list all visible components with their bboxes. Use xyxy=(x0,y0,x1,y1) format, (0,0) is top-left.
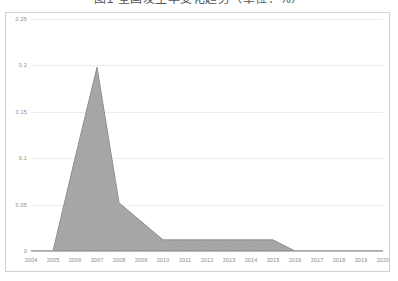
x-tick-label: 2016 xyxy=(289,257,302,263)
y-tick-label: 0.25 xyxy=(15,16,27,22)
x-tick-label: 2007 xyxy=(91,257,104,263)
x-tick-label: 2017 xyxy=(311,257,324,263)
x-axis-labels: 2004200520062007200820092010201120122013… xyxy=(31,257,383,271)
x-tick-label: 2019 xyxy=(355,257,368,263)
axis-baseline: 0 xyxy=(31,251,383,252)
chart-frame: 00.050.10.150.20.25 20042005200620072008… xyxy=(5,12,390,272)
x-tick-label: 2009 xyxy=(135,257,148,263)
chart-title: 图1 全国发生率变化趋势（单位：%） xyxy=(0,0,398,6)
y-tick-label: 0.15 xyxy=(15,109,27,115)
x-tick-label: 2008 xyxy=(113,257,126,263)
x-tick-label: 2015 xyxy=(267,257,280,263)
x-tick-label: 2018 xyxy=(333,257,346,263)
x-tick-label: 2020 xyxy=(377,257,390,263)
x-tick-label: 2005 xyxy=(47,257,60,263)
plot-area: 00.050.10.150.20.25 xyxy=(31,19,383,251)
y-tick-label: 0.05 xyxy=(15,202,27,208)
x-tick-label: 2012 xyxy=(201,257,214,263)
y-tick-label: 0.2 xyxy=(19,62,27,68)
x-tick-label: 2011 xyxy=(179,257,191,263)
area-series-path xyxy=(31,67,383,251)
x-tick-label: 2014 xyxy=(245,257,258,263)
x-tick-label: 2006 xyxy=(69,257,82,263)
x-tick-label: 2010 xyxy=(157,257,170,263)
y-tick-label: 0.1 xyxy=(19,155,27,161)
x-tick-label: 2013 xyxy=(223,257,236,263)
y-tick-label: 0 xyxy=(24,248,27,254)
x-tick-label: 2004 xyxy=(25,257,38,263)
area-series xyxy=(31,19,383,251)
chart-title-clip: 图1 全国发生率变化趋势（单位：%） xyxy=(0,0,398,11)
